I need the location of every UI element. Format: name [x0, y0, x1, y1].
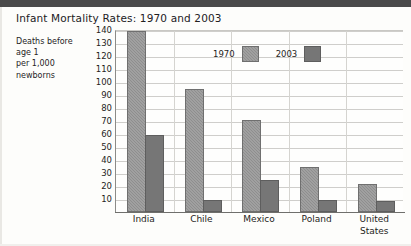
legend-entry-2003: 2003 [276, 46, 322, 62]
bar-1970-united-states [358, 184, 377, 212]
y-axis-tick-labels: 102030405060708090100110120130140 [88, 30, 112, 212]
x-label-poland: Poland [288, 214, 346, 226]
y-tick-label-30: 30 [88, 169, 112, 178]
bar-2003-poland [318, 200, 337, 212]
y-tick-label-130: 130 [88, 39, 112, 48]
y-tick-label-120: 120 [88, 52, 112, 61]
bar-2003-united-states [376, 201, 395, 212]
y-tick-label-60: 60 [88, 130, 112, 139]
caption-line-2: age 1 [16, 47, 96, 58]
page-top-bar [0, 0, 411, 7]
bar-group [346, 31, 404, 212]
x-axis-line [115, 212, 405, 213]
caption-line-1: Deaths before [16, 36, 96, 47]
caption-line-4: newborns [16, 70, 96, 81]
chart-legend: 1970 2003 [213, 46, 331, 62]
y-tick-label-50: 50 [88, 143, 112, 152]
bar-group [116, 31, 174, 212]
y-tick-label-40: 40 [88, 156, 112, 165]
y-tick-label-80: 80 [88, 104, 112, 113]
legend-label-1970: 1970 [213, 49, 235, 59]
page-left-edge [0, 7, 2, 246]
bar-2003-mexico [260, 180, 279, 212]
x-label-line-1: Mexico [230, 214, 288, 226]
y-axis-caption: Deaths before age 1 per 1,000 newborns [16, 36, 96, 81]
y-tick-label-20: 20 [88, 182, 112, 191]
y-tick-label-140: 140 [88, 26, 112, 35]
x-axis-category-labels: IndiaChileMexicoPolandUnitedStates [115, 214, 403, 244]
y-tick-label-10: 10 [88, 195, 112, 204]
y-tick-label-110: 110 [88, 65, 112, 74]
legend-label-2003: 2003 [276, 49, 298, 59]
bar-2003-chile [203, 200, 222, 212]
y-tick-label-90: 90 [88, 91, 112, 100]
x-label-india: India [115, 214, 173, 226]
x-label-line-1: Chile [173, 214, 231, 226]
bar-1970-india [127, 31, 146, 212]
bar-1970-poland [300, 167, 319, 212]
y-tick-label-100: 100 [88, 78, 112, 87]
bar-1970-chile [185, 89, 204, 212]
chart-page: Infant Mortality Rates: 1970 and 2003 De… [0, 0, 411, 246]
x-label-chile: Chile [173, 214, 231, 226]
x-label-line-1: India [115, 214, 173, 226]
caption-line-3: per 1,000 [16, 58, 96, 69]
x-label-mexico: Mexico [230, 214, 288, 226]
legend-entry-1970: 1970 [213, 46, 259, 62]
chart-title: Infant Mortality Rates: 1970 and 2003 [16, 12, 222, 24]
x-label-line-1: Poland [288, 214, 346, 226]
y-tick-label-70: 70 [88, 117, 112, 126]
bar-2003-india [145, 135, 164, 212]
x-label-line-2: States [345, 226, 403, 238]
x-label-united-states: UnitedStates [345, 214, 403, 237]
legend-swatch-2003 [304, 46, 321, 62]
bar-1970-mexico [242, 120, 261, 212]
legend-swatch-1970 [242, 46, 259, 62]
x-label-line-1: United [345, 214, 403, 226]
